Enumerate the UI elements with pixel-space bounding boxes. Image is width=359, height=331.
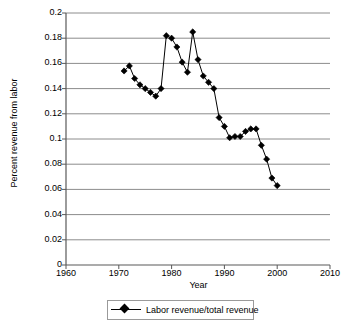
data-point-marker bbox=[158, 86, 164, 92]
x-axis-tick-label: 1960 bbox=[46, 268, 86, 278]
data-point-marker bbox=[258, 142, 264, 148]
data-point-marker bbox=[269, 175, 275, 181]
x-axis-title: Year bbox=[66, 280, 331, 290]
series-markers-labor-revenue bbox=[121, 29, 280, 189]
series-line-labor-revenue bbox=[124, 32, 277, 186]
gridlines bbox=[66, 13, 330, 240]
data-point-marker bbox=[221, 123, 227, 129]
data-point-marker bbox=[227, 135, 233, 141]
data-line bbox=[124, 32, 277, 186]
x-axis-tick-label: 1980 bbox=[152, 268, 192, 278]
x-axis-tick-label: 2010 bbox=[310, 268, 350, 278]
data-point-marker bbox=[274, 183, 280, 189]
data-point-marker bbox=[153, 93, 159, 99]
data-point-marker bbox=[174, 44, 180, 50]
data-point-marker bbox=[264, 156, 270, 162]
x-axis-tick-label: 1990 bbox=[204, 268, 244, 278]
x-axis-tick-label: 2000 bbox=[257, 268, 297, 278]
data-point-marker bbox=[147, 89, 153, 95]
legend-entry-label: Labor revenue/total revenue bbox=[144, 305, 259, 315]
data-point-marker bbox=[190, 29, 196, 35]
data-point-marker bbox=[142, 86, 148, 92]
data-point-marker bbox=[216, 114, 222, 120]
data-point-marker bbox=[184, 69, 190, 75]
data-point-marker bbox=[253, 126, 259, 132]
legend-marker-icon bbox=[108, 301, 144, 319]
x-axis-tick-label: 1970 bbox=[99, 268, 139, 278]
data-point-marker bbox=[179, 59, 185, 65]
legend: Labor revenue/total revenue bbox=[107, 300, 254, 320]
chart-container: Percent revenue from labor 00.020.040.06… bbox=[0, 0, 359, 331]
legend-entry: Labor revenue/total revenue bbox=[108, 301, 253, 319]
data-point-marker bbox=[195, 57, 201, 63]
